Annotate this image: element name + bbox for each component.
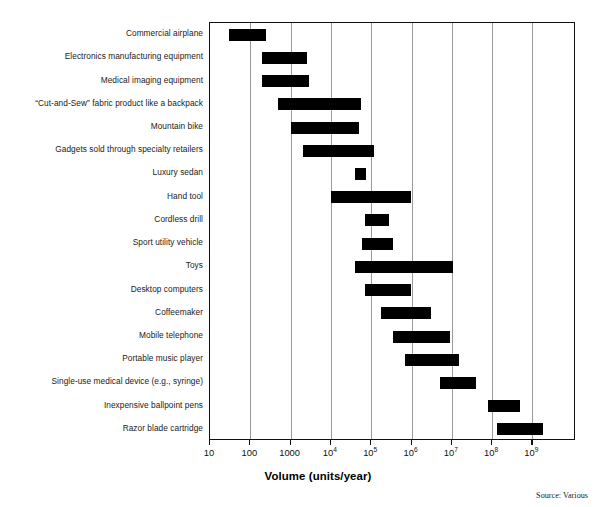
chart-figure: Commercial airplaneElectronics manufactu… <box>0 0 600 507</box>
category-label: Mountain bike <box>0 121 203 131</box>
source-note: Source: Various <box>536 491 588 500</box>
category-label: Toys <box>0 260 203 270</box>
range-bar <box>365 214 389 226</box>
range-bar <box>262 52 306 64</box>
x-tick <box>531 440 532 445</box>
x-tick <box>209 440 210 445</box>
range-bar <box>393 331 450 343</box>
category-label: Gadgets sold through specialty retailers <box>0 144 203 154</box>
category-label: Portable music player <box>0 353 203 363</box>
x-tick <box>330 440 331 445</box>
plot-area <box>209 22 575 440</box>
category-label: Inexpensive ballpoint pens <box>0 400 203 410</box>
category-label: Commercial airplane <box>0 28 203 38</box>
range-bar <box>362 238 393 250</box>
x-tick-label: 10 <box>204 447 214 458</box>
x-tick <box>411 440 412 445</box>
category-label: Medical imaging equipment <box>0 75 203 85</box>
range-bar <box>497 423 543 435</box>
x-tick-label: 106 <box>403 447 417 458</box>
x-axis-title: Volume (units/year) <box>18 470 600 482</box>
category-label: Razor blade cartridge <box>0 423 203 433</box>
category-label: Luxury sedan <box>0 167 203 177</box>
gridline-108 <box>492 23 493 439</box>
gridline-105 <box>371 23 372 439</box>
range-bar <box>381 307 430 319</box>
range-bar <box>278 98 360 110</box>
category-label: Desktop computers <box>0 284 203 294</box>
x-tick-label: 109 <box>524 447 538 458</box>
gridline-109 <box>532 23 533 439</box>
x-tick-label: 105 <box>363 447 377 458</box>
x-tick-label: 104 <box>323 447 337 458</box>
x-tick-label: 1000 <box>279 447 300 458</box>
range-bar <box>488 400 520 412</box>
category-label: Cordless drill <box>0 214 203 224</box>
range-bar <box>365 284 412 296</box>
range-bar <box>229 29 266 41</box>
range-bar <box>355 168 366 180</box>
x-tick <box>249 440 250 445</box>
range-bar <box>331 191 412 203</box>
category-label: Electronics manufacturing equipment <box>0 51 203 61</box>
category-label: Sport utility vehicle <box>0 237 203 247</box>
gridline-100 <box>250 23 251 439</box>
x-tick-label: 108 <box>484 447 498 458</box>
category-label: Coffeemaker <box>0 307 203 317</box>
category-label: Single-use medical device (e.g., syringe… <box>0 376 203 386</box>
category-label: Hand tool <box>0 191 203 201</box>
category-label: “Cut-and-Sew” fabric product like a back… <box>0 98 203 108</box>
x-tick <box>491 440 492 445</box>
x-tick-label: 107 <box>444 447 458 458</box>
x-tick <box>451 440 452 445</box>
gridline-104 <box>331 23 332 439</box>
x-tick <box>290 440 291 445</box>
gridline-106 <box>412 23 413 439</box>
range-bar <box>355 261 453 273</box>
x-tick <box>370 440 371 445</box>
x-tick-label: 100 <box>241 447 257 458</box>
range-bar <box>440 377 476 389</box>
range-bar <box>405 354 459 366</box>
range-bar <box>262 75 308 87</box>
category-label: Mobile telephone <box>0 330 203 340</box>
range-bar <box>291 122 359 134</box>
range-bar <box>303 145 375 157</box>
